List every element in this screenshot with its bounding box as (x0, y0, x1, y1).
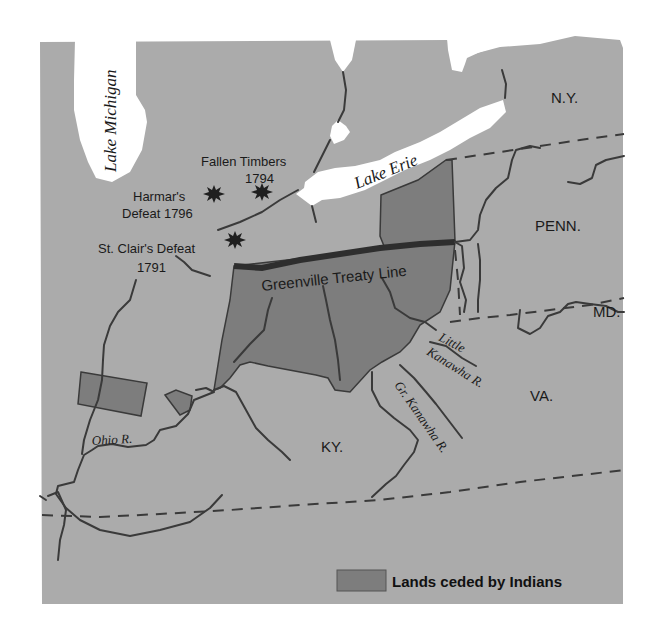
st-clairs-defeat-label-2: 1791 (137, 260, 166, 275)
state-label-ky: KY. (321, 438, 343, 455)
map: Lake Michigan Lake Erie N.Y. PENN. MD. V… (0, 0, 660, 630)
ohio-river-label: Ohio R. (91, 431, 132, 448)
state-label-md: MD. (593, 303, 621, 320)
state-label-ny: N.Y. (551, 89, 578, 106)
harmars-defeat-label-2: Defeat 1796 (122, 206, 193, 221)
st-clairs-defeat-label-1: St. Clair's Defeat (98, 241, 196, 256)
legend-swatch (337, 570, 386, 591)
lake-michigan-label: Lake Michigan (101, 70, 120, 173)
state-label-penn: PENN. (535, 217, 581, 234)
fallen-timbers-label-2: 1794 (245, 171, 274, 186)
legend-label: Lands ceded by Indians (392, 573, 562, 590)
legend: Lands ceded by Indians (337, 570, 562, 591)
fallen-timbers-label-1: Fallen Timbers (201, 154, 287, 169)
state-label-va: VA. (530, 387, 553, 404)
harmars-defeat-label-1: Harmar's (133, 189, 186, 204)
